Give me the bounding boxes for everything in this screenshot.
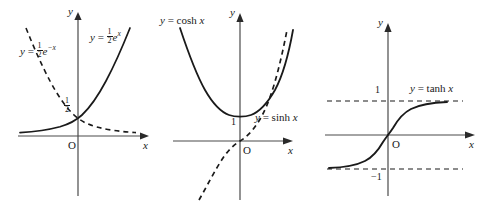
y-axis — [384, 23, 391, 196]
curve-label-half-exp-negative-x: y = 12e−x — [20, 42, 56, 60]
x-axis-label: x — [288, 145, 293, 156]
tick-label-upper-one: 1 — [375, 85, 380, 95]
x-axis — [18, 132, 149, 139]
y-axis-label: y — [230, 7, 235, 18]
y-axis — [236, 13, 243, 200]
curve-cosh — [180, 28, 293, 117]
panel-cosh-sinh-plot — [155, 0, 305, 210]
panel-tanh-plot — [305, 0, 486, 210]
panel-cosh-sinh: y x O 1 y = cosh x y = sinh x — [155, 0, 305, 210]
hyperbolic-functions-figure: y x O 12 y = 12e−x y = 12ex — [0, 0, 486, 210]
panel-tanh: y x O 1 −1 y = tanh x — [305, 0, 486, 210]
panel-exponential-halves-plot — [0, 0, 155, 210]
curve-label-cosh: y = cosh x — [160, 15, 204, 26]
y-axis-label: y — [378, 17, 383, 28]
tick-label-one: 1 — [231, 117, 236, 127]
curve-label-half-exp-positive-x: y = 12ex — [90, 28, 121, 46]
y-axis-label: y — [68, 6, 73, 17]
tick-label-lower-minus-one: −1 — [371, 172, 382, 182]
origin-label: O — [68, 140, 76, 151]
x-axis-label: x — [143, 140, 148, 151]
origin-label: O — [392, 139, 400, 150]
curve-label-sinh: y = sinh x — [255, 112, 298, 123]
x-axis-label: x — [469, 139, 474, 150]
y-axis — [74, 12, 81, 196]
tick-label-one-half: 12 — [64, 97, 70, 115]
curve-label-tanh: y = tanh x — [410, 83, 453, 94]
origin-label: O — [243, 145, 251, 156]
panel-exponential-halves: y x O 12 y = 12e−x y = 12ex — [0, 0, 155, 210]
x-axis — [173, 137, 293, 144]
x-axis — [325, 131, 475, 138]
